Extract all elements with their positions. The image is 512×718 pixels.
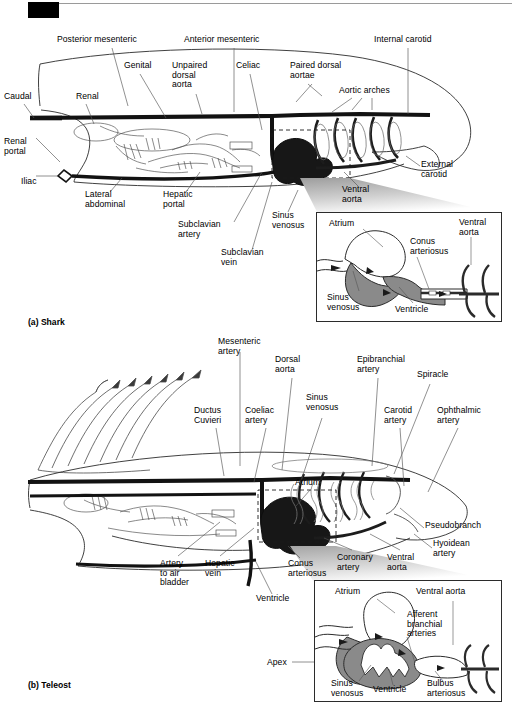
label-coronary-artery: Coronary artery	[337, 553, 373, 572]
panel-b-caption: (b) Teleost	[28, 680, 71, 690]
figure-page: Posterior mesenteric Anterior mesenteric…	[0, 0, 512, 718]
label-anterior-mesenteric: Anterior mesenteric	[184, 35, 259, 45]
label-external-carotid: External carotid	[421, 160, 453, 179]
label-conus-arteriosus-teleost-body: Conus arteriosus	[288, 559, 326, 578]
label-unpaired-dorsal-aorta: Unpaired dorsal aorta	[172, 61, 207, 90]
label-aortic-arches: Aortic arches	[339, 86, 390, 96]
label-renal-portal: Renal portal	[4, 137, 27, 156]
label-dorsal-aorta: Dorsal aorta	[275, 355, 300, 374]
label-genital: Genital	[124, 61, 152, 71]
label-hepatic-vein: Hepatic vein	[205, 559, 235, 578]
panel-a-caption: (a) Shark	[28, 317, 65, 327]
teleost-inset-label-sinus-venosus: Sinus venosus	[331, 679, 363, 698]
label-subclavian-vein: Subclavian vein	[221, 248, 264, 267]
label-atrium-teleost-body: Atrium	[295, 478, 320, 488]
teleost-inset-label-afferent-branchial-arteries: Afferent branchial arteries	[407, 610, 442, 639]
label-iliac: Iliac	[21, 177, 37, 187]
label-hepatic-portal: Hepatic portal	[163, 190, 193, 209]
inset-label-atrium: Atrium	[329, 219, 354, 229]
label-pseudobranch: Pseudobranch	[425, 521, 481, 531]
label-coeliac-artery: Coeliac artery	[245, 406, 274, 425]
label-subclavian-artery: Subclavian artery	[178, 220, 221, 239]
label-ventral-aorta-shark-body: Ventral aorta	[342, 185, 369, 204]
label-apex: Apex	[267, 658, 287, 668]
label-sinus-venosus-teleost-body: Sinus venosus	[306, 393, 338, 412]
teleost-inset-label-ventricle: Ventricle	[373, 685, 406, 695]
label-sinus-venosus-shark-body: Sinus venosus	[272, 211, 304, 230]
inset-label-ventral-aorta: Ventral aorta	[459, 218, 486, 237]
label-celiac: Celiac	[236, 61, 260, 71]
teleost-heart-inset: Atrium Ventral aorta Afferent branchial …	[314, 580, 502, 702]
label-hyoidean-artery: Hyoidean artery	[433, 539, 470, 558]
shark-heart-inset: Atrium Conus arteriosus Ventral aorta Si…	[316, 212, 502, 322]
shark-viscera	[74, 123, 260, 173]
label-renal: Renal	[76, 92, 99, 102]
inset-label-conus-arteriosus: Conus arteriosus	[410, 237, 448, 256]
label-mesenteric-artery: Mesenteric artery	[218, 337, 261, 356]
label-paired-dorsal-aortae: Paired dorsal aortae	[290, 61, 341, 80]
inset-label-sinus-venosus: Sinus venosus	[327, 293, 359, 312]
teleost-dorsal-fin	[38, 370, 201, 473]
label-carotid-artery: Carotid artery	[384, 406, 412, 425]
label-ventral-aorta-teleost-body: Ventral aorta	[387, 553, 414, 572]
label-lateral-abdominal: Lateral abdominal	[85, 190, 125, 209]
label-posterior-mesenteric: Posterior mesenteric	[57, 35, 137, 45]
label-ophthalmic-artery: Ophthalmic artery	[437, 406, 481, 425]
label-caudal: Caudal	[4, 92, 32, 102]
label-ductus-cuvieri: Ductus Cuvieri	[194, 406, 221, 425]
teleost-inset-label-ventral-aorta: Ventral aorta	[416, 587, 465, 597]
inset-label-ventricle: Ventricle	[395, 305, 428, 315]
label-internal-carotid: Internal carotid	[374, 35, 432, 45]
teleost-inset-label-atrium: Atrium	[335, 587, 360, 597]
shark-inset-wedge	[300, 178, 500, 214]
label-ventricle-teleost-body: Ventricle	[256, 594, 289, 604]
teleost-inset-label-bulbus-arteriosus: Bulbus arteriosus	[427, 679, 465, 698]
label-spiracle: Spiracle	[417, 370, 448, 380]
label-epibranchial-artery: Epibranchial artery	[357, 355, 405, 374]
label-artery-to-air-bladder: Artery to air bladder	[160, 559, 189, 588]
teleost-pseudobranch	[386, 476, 418, 532]
